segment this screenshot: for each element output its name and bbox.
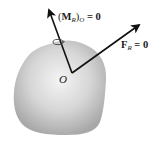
force-subscript: R (127, 44, 131, 52)
force-resultant-label: FR = 0 (121, 40, 148, 51)
origin-point-label: O (59, 74, 67, 85)
force-equals-zero: = 0 (132, 39, 148, 50)
moment-equals-zero: = 0 (84, 11, 100, 22)
rigid-body (14, 40, 106, 135)
moment-subscript: R (71, 16, 75, 24)
moment-symbol: M (62, 11, 72, 22)
moment-resultant-label: (MR)O = 0 (58, 12, 101, 23)
moment-outer-subscript: O (79, 16, 84, 24)
